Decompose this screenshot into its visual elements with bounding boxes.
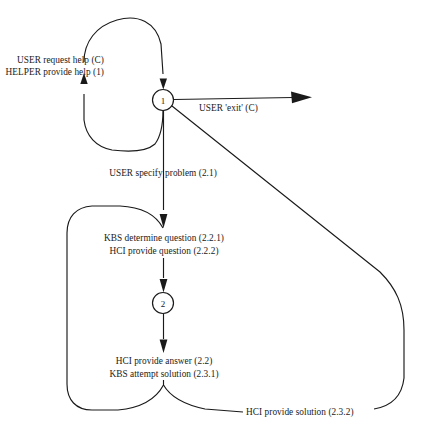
question-node2-arrowhead [160, 279, 168, 293]
node-2-label: 2 [161, 299, 166, 309]
label-hci-provide-solution: HCI provide solution (2.3.2) [246, 407, 354, 418]
help-loop-down-arrowhead [160, 79, 167, 90]
exit-arrow-line [174, 98, 293, 100]
exit-arrowhead [291, 92, 312, 104]
node-1[interactable]: 1 [153, 90, 174, 111]
state-transition-diagram: 1 2 USER request help (C) HELPER provide… [0, 0, 426, 436]
edge-question-to-node2 [160, 258, 168, 293]
edge-help-request-loop [80, 18, 167, 151]
label-user-request-help: USER request help (C) [17, 55, 104, 66]
edge-provide-solution-loop [164, 106, 405, 412]
specify-problem-arrowhead [160, 214, 168, 228]
help-loop-lower-path [84, 94, 163, 151]
solution-loop-left-segment [164, 385, 244, 412]
node2-answer-arrowhead [160, 340, 168, 354]
label-kbs-determine-question: KBS determine question (2.2.1) [104, 233, 224, 244]
label-helper-provide-help: HELPER provide help (1) [6, 67, 105, 78]
diagram-canvas: 1 2 USER request help (C) HELPER provide… [0, 0, 426, 436]
label-user-exit: USER 'exit' (C) [199, 103, 258, 114]
node-1-label: 1 [161, 96, 166, 106]
label-user-specify-problem: USER specify problem (2.1) [109, 168, 217, 179]
label-hci-provide-answer: HCI provide answer (2.2) [116, 356, 213, 367]
node-2[interactable]: 2 [153, 293, 174, 314]
help-loop-upper-path [84, 18, 163, 74]
label-kbs-attempt-solution: KBS attempt solution (2.3.1) [109, 369, 218, 380]
edge-node2-to-answer [160, 314, 168, 354]
label-hci-provide-question: HCI provide question (2.2.2) [109, 246, 218, 257]
edge-exit-transition [174, 92, 312, 104]
